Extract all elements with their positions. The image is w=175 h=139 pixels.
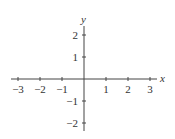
coordinate-plane: −3 −2 −1 1 2 3 2 1 −1 −2 x y [0, 0, 175, 139]
y-tick-label: 2 [73, 29, 79, 41]
x-axis-label: x [159, 72, 165, 84]
y-axis-label: y [80, 13, 86, 25]
x-tick-label: −1 [56, 83, 68, 95]
y-tick-label: −2 [66, 117, 78, 129]
y-tick-label: −1 [66, 95, 78, 107]
x-tick-label: −2 [34, 83, 46, 95]
x-tick-label: 2 [125, 83, 131, 95]
x-tick-labels: −3 −2 −1 1 2 3 [12, 83, 153, 95]
y-tick-label: 1 [73, 51, 79, 63]
x-tick-label: 1 [103, 83, 109, 95]
x-tick-label: −3 [12, 83, 24, 95]
x-tick-label: 3 [147, 83, 153, 95]
